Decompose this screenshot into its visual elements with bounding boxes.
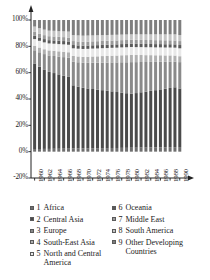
- x-tick-label: 1968: [76, 169, 83, 182]
- bar-segment: [77, 41, 80, 45]
- bar-segment: [130, 20, 133, 34]
- legend-item-3[interactable]: 3Europe: [30, 226, 112, 235]
- bar-segment: [144, 40, 147, 44]
- bar-segment: [159, 147, 162, 151]
- bar-segment: [173, 44, 176, 47]
- bar-segment: [149, 55, 152, 62]
- bar-segment: [91, 45, 94, 48]
- bar-segment: [43, 149, 46, 152]
- legend-swatch-icon: [30, 217, 34, 221]
- bar-1984: [149, 20, 152, 152]
- bar-segment: [130, 40, 133, 44]
- bar-segment: [125, 40, 128, 44]
- bar-segment: [86, 42, 89, 46]
- bar-1968: [72, 20, 75, 152]
- bar-segment: [38, 28, 41, 33]
- bar-1981: [135, 20, 138, 152]
- legend-item-8[interactable]: 8South America: [112, 226, 208, 235]
- legend-item-5[interactable]: 5North and Central America: [30, 249, 112, 268]
- bar-segment: [82, 57, 85, 63]
- bar-segment: [115, 62, 118, 92]
- bar-segment: [106, 148, 109, 152]
- bar-segment: [125, 55, 128, 62]
- bar-segment: [86, 88, 89, 148]
- bar-segment: [120, 148, 123, 152]
- bar-segment: [48, 43, 51, 50]
- bar-segment: [149, 40, 152, 44]
- bar-segment: [72, 85, 75, 148]
- bar-segment: [96, 20, 99, 35]
- bar-segment: [67, 77, 70, 149]
- bar-segment: [48, 40, 51, 43]
- bar-segment: [115, 44, 118, 47]
- bar-segment: [106, 63, 109, 91]
- bar-segment: [144, 62, 147, 92]
- bar-segment: [43, 30, 46, 36]
- bar-segment: [52, 40, 55, 43]
- bar-segment: [111, 91, 114, 148]
- legend-item-label: South America: [126, 226, 209, 235]
- legend-item-9[interactable]: 9Other Developing Countries: [112, 238, 208, 257]
- bar-segment: [77, 149, 80, 152]
- bar-segment: [164, 55, 167, 61]
- bar-1966: [62, 20, 65, 152]
- bar-segment: [125, 44, 128, 47]
- legend-swatch-icon: [112, 217, 116, 221]
- bar-segment: [43, 20, 46, 30]
- bar-segment: [120, 35, 123, 41]
- bar-segment: [62, 31, 65, 37]
- legend-item-4[interactable]: 4South-East Asia: [30, 238, 112, 247]
- bar-segment: [120, 47, 123, 55]
- bar-segment: [144, 44, 147, 47]
- bar-segment: [125, 93, 128, 148]
- bar-segment: [169, 44, 172, 47]
- bar-segment: [91, 89, 94, 148]
- bar-segment: [144, 148, 147, 152]
- bar-segment: [144, 20, 147, 34]
- bar-segment: [130, 34, 133, 39]
- bar-segment: [77, 20, 80, 35]
- chart-legend: 1Africa2Central Asia3Europe4South-East A…: [0, 203, 210, 280]
- legend-swatch-icon: [112, 229, 116, 233]
- bar-segment: [82, 20, 85, 36]
- bar-segment: [86, 20, 89, 36]
- legend-item-7[interactable]: 7Middle East: [112, 215, 208, 224]
- bar-segment: [159, 34, 162, 40]
- bar-segment: [140, 20, 143, 34]
- bar-segment: [43, 70, 46, 149]
- bar-1972: [91, 20, 94, 152]
- bar-segment: [135, 20, 138, 34]
- x-tick-label: 1990: [183, 169, 190, 182]
- legend-column-left: 1Africa2Central Asia3Europe4South-East A…: [30, 203, 112, 270]
- bar-segment: [43, 35, 46, 39]
- bar-segment: [77, 49, 80, 57]
- legend-item-label: Middle East: [126, 215, 209, 224]
- y-tick-label: 60%: [0, 69, 28, 76]
- y-tick-label: 0%: [0, 148, 28, 155]
- bar-segment: [77, 62, 80, 86]
- bar-segment: [77, 45, 80, 48]
- bar-segment: [57, 51, 60, 56]
- legend-swatch-icon: [30, 240, 34, 244]
- bar-1963: [48, 20, 51, 152]
- bar-segment: [82, 63, 85, 88]
- bar-segment: [57, 74, 60, 148]
- bar-segment: [159, 55, 162, 61]
- legend-item-2[interactable]: 2Central Asia: [30, 215, 112, 224]
- legend-item-6[interactable]: 6Oceania: [112, 203, 208, 212]
- bar-segment: [135, 44, 138, 47]
- bar-1974: [101, 20, 104, 152]
- bar-segment: [178, 147, 181, 152]
- bar-1990: [178, 20, 181, 152]
- bar-segment: [38, 41, 41, 48]
- bar-segment: [149, 34, 152, 40]
- bar-segment: [82, 49, 85, 57]
- bar-segment: [62, 37, 65, 41]
- bar-segment: [149, 62, 152, 91]
- bar-segment: [125, 20, 128, 34]
- bar-segment: [43, 49, 46, 54]
- bar-segment: [106, 41, 109, 45]
- bar-1977: [115, 20, 118, 152]
- legend-item-number: 5: [37, 249, 41, 258]
- legend-item-1[interactable]: 1Africa: [30, 203, 112, 212]
